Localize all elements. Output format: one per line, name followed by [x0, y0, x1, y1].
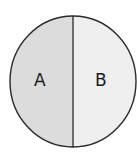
divided-circle-diagram: A B [0, 0, 137, 164]
region-b-label: B [95, 72, 107, 89]
circle-graphic [0, 0, 137, 164]
region-a-label: A [34, 72, 46, 89]
